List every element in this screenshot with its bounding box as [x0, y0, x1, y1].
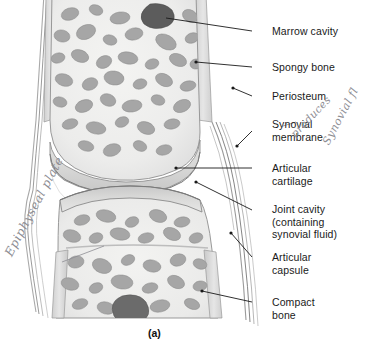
figure-caption: (a) — [148, 327, 161, 339]
spongy-bone-upper — [50, 0, 200, 180]
leader-dot-synovial-membrane — [235, 144, 238, 147]
label-line: Articular — [272, 162, 313, 175]
leader-dot-articular-cartilage — [174, 166, 177, 169]
leader-dot-compact-bone — [200, 289, 203, 292]
label-line: bone — [272, 309, 315, 322]
leader-synovial-membrane — [237, 131, 252, 146]
label-line: synovial fluid) — [272, 228, 337, 241]
label-line: Marrow cavity — [272, 25, 338, 38]
label-articular-cartilage: Articularcartilage — [272, 162, 313, 187]
leader-periosteum — [233, 88, 252, 96]
leader-dot-joint-cavity — [194, 180, 197, 183]
label-articular-capsule: Articularcapsule — [272, 251, 311, 276]
leader-dot-spongy-bone — [194, 60, 197, 63]
label-line: Compact — [272, 296, 315, 309]
label-line: cartilage — [272, 175, 313, 188]
label-line: Spongy bone — [272, 61, 335, 74]
label-compact-bone: Compactbone — [272, 296, 315, 321]
label-line: Joint cavity — [272, 203, 337, 216]
lower-bone — [52, 186, 222, 324]
label-spongy-bone: Spongy bone — [272, 61, 335, 74]
label-line: (containing — [272, 216, 337, 229]
label-marrow-cavity: Marrow cavity — [272, 25, 338, 38]
leader-articular-capsule — [231, 233, 252, 257]
label-line: capsule — [272, 264, 311, 277]
synovial-joint-figure: Marrow cavitySpongy bonePeriosteumSynovi… — [0, 0, 372, 353]
leader-dot-articular-capsule — [229, 231, 232, 234]
label-joint-cavity: Joint cavity(containingsynovial fluid) — [272, 203, 337, 241]
leader-dot-periosteum — [231, 86, 234, 89]
label-line: Articular — [272, 251, 311, 264]
